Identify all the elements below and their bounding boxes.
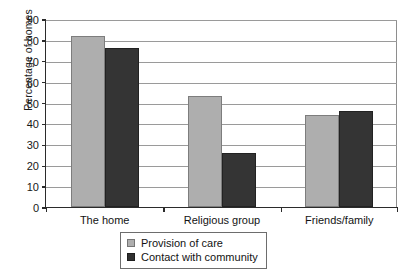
y-axis-tick: 60	[27, 77, 46, 89]
x-axis-tick-mark	[163, 207, 164, 212]
y-axis-tick-label: 30	[27, 139, 42, 151]
legend-item[interactable]: Contact with community	[127, 250, 258, 264]
plot-area: 9080706050403020100 The homeReligious gr…	[45, 20, 397, 208]
legend-item[interactable]: Provision of care	[127, 236, 258, 250]
bar	[339, 111, 373, 207]
y-axis-tick: 90	[27, 14, 46, 26]
y-axis-tick-label: 60	[27, 77, 42, 89]
y-axis-tick-label: 90	[27, 14, 42, 26]
bars-layer	[46, 20, 397, 207]
x-axis-category-label: Religious group	[184, 214, 260, 226]
x-axis-tick-mark	[397, 207, 398, 212]
light-gray-swatch-icon	[127, 239, 135, 247]
x-axis-tick-mark	[46, 207, 47, 212]
x-axis-category-label: The home	[80, 214, 130, 226]
y-axis-tick-label: 20	[27, 160, 42, 172]
y-axis-tick: 80	[27, 35, 46, 47]
bar	[305, 115, 339, 207]
bar	[71, 36, 105, 207]
dark-gray-swatch-icon	[127, 253, 135, 261]
legend-item-label: Provision of care	[141, 237, 223, 249]
y-axis-tick-label: 80	[27, 35, 42, 47]
y-axis-tick: 20	[27, 160, 46, 172]
x-axis-tick-mark	[281, 207, 282, 212]
y-axis-tick-label: 0	[33, 202, 42, 214]
legend-item-label: Contact with community	[141, 251, 258, 263]
y-axis-tick: 40	[27, 118, 46, 130]
bar	[188, 96, 222, 207]
y-axis-tick: 0	[33, 202, 46, 214]
y-axis-tick-label: 40	[27, 118, 42, 130]
y-axis-tick-label: 70	[27, 56, 42, 68]
bar	[222, 153, 256, 207]
y-axis-tick: 70	[27, 56, 46, 68]
y-axis-tick-label: 50	[27, 98, 42, 110]
bar-chart: Percentage of homes 9080706050403020100 …	[0, 0, 407, 271]
legend: Provision of care Contact with community	[120, 232, 267, 269]
y-axis-tick: 50	[27, 98, 46, 110]
y-axis-tick-label: 10	[27, 181, 42, 193]
bar	[105, 48, 139, 207]
y-axis-tick: 30	[27, 139, 46, 151]
y-axis-tick: 10	[27, 181, 46, 193]
x-axis-category-label: Friends/family	[305, 214, 373, 226]
